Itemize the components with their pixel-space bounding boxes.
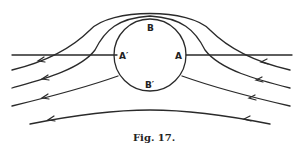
label-a: A <box>175 51 182 61</box>
label-b: B <box>147 23 154 33</box>
figure-caption: Fig. 17. <box>133 132 175 143</box>
arrow-icon <box>48 116 55 121</box>
streamline-lower-right <box>182 76 290 106</box>
label-b-prime: B′ <box>145 80 155 90</box>
streamline-top-outer <box>12 14 290 71</box>
label-a-prime: A′ <box>119 51 129 61</box>
streamline-bottom <box>30 110 270 124</box>
streamline-lower <box>12 76 118 106</box>
arrow-icon <box>244 116 251 121</box>
arrow-icon <box>261 59 268 64</box>
flow-diagram: B B′ A′ A Fig. 17. <box>0 0 299 147</box>
